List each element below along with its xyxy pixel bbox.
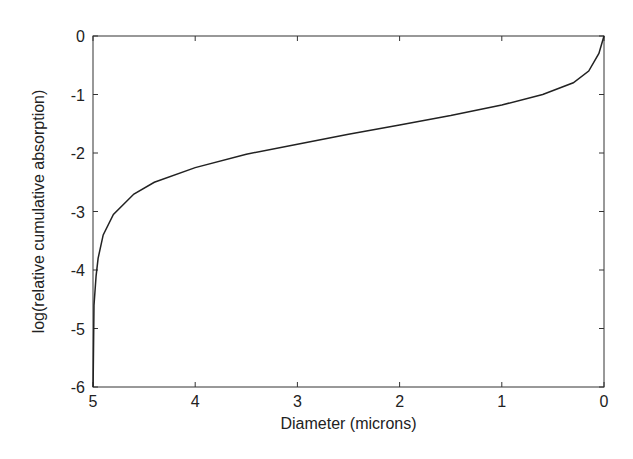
y-tick-label: -1 bbox=[71, 87, 85, 104]
x-tick-label: 5 bbox=[89, 393, 98, 410]
x-axis-label: Diameter (microns) bbox=[280, 415, 416, 432]
x-tick-label: 2 bbox=[395, 393, 404, 410]
x-tick-label: 4 bbox=[191, 393, 200, 410]
data-curve bbox=[93, 36, 604, 387]
y-tick-label: -2 bbox=[71, 145, 85, 162]
y-tick-label: -3 bbox=[71, 204, 85, 221]
y-tick-label: -4 bbox=[71, 262, 85, 279]
plot-frame bbox=[93, 36, 604, 387]
x-tick-label: 0 bbox=[600, 393, 609, 410]
chart: 5432100-1-2-3-4-5-6Diameter (microns)log… bbox=[0, 0, 633, 459]
y-tick-label: -6 bbox=[71, 379, 85, 396]
x-tick-label: 1 bbox=[497, 393, 506, 410]
y-axis-label: log(relative cumulative absorption) bbox=[30, 90, 47, 334]
y-tick-label: -5 bbox=[71, 321, 85, 338]
x-tick-label: 3 bbox=[293, 393, 302, 410]
y-tick-label: 0 bbox=[76, 28, 85, 45]
plot: 5432100-1-2-3-4-5-6Diameter (microns)log… bbox=[0, 0, 633, 459]
